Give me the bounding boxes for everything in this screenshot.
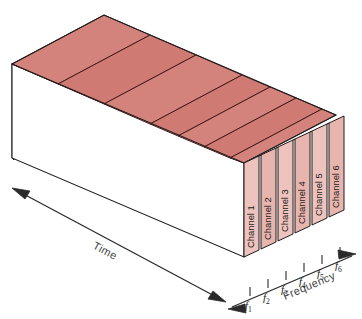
frequency-axis-line xyxy=(232,256,352,307)
channel-label-3: Channel 3 xyxy=(279,189,290,232)
time-arrowhead-end xyxy=(208,291,226,302)
channel-label-5: Channel 5 xyxy=(313,173,324,216)
time-arrowhead-start xyxy=(12,188,30,199)
channel-label-4: Channel 4 xyxy=(296,181,307,224)
figure-root: Channel 1 Channel 2 Channel 3 Channel 4 … xyxy=(0,0,362,319)
channel-label-2: Channel 2 xyxy=(262,197,273,240)
frequency-tick-label-2: f2 xyxy=(263,291,270,306)
channel-label-6: Channel 6 xyxy=(330,165,341,208)
channel-label-1: Channel 1 xyxy=(245,205,256,248)
fdm-block-diagram: Channel 1 Channel 2 Channel 3 Channel 4 … xyxy=(0,0,362,319)
